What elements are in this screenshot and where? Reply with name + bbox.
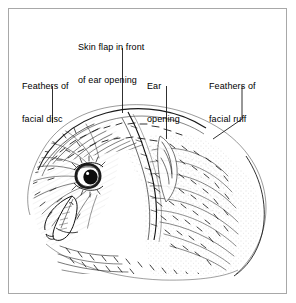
label-facial-disc-line1: Feathers of xyxy=(22,81,69,92)
label-facial-disc-line2: facial disc xyxy=(22,114,69,125)
label-skin-flap: Skin flap in front of ear opening xyxy=(78,20,144,108)
label-facial-ruff-line1: Feathers of xyxy=(209,81,256,92)
label-skin-flap-line1: Skin flap in front xyxy=(78,42,144,53)
figure-frame xyxy=(8,8,287,294)
label-ear-opening-line1: Ear xyxy=(147,81,180,92)
label-facial-disc: Feathers of facial disc xyxy=(22,59,69,147)
label-skin-flap-line2: of ear opening xyxy=(78,75,144,86)
label-facial-ruff: Feathers of facial ruff xyxy=(209,59,256,147)
illustration-figure: Skin flap in front of ear opening Feathe… xyxy=(0,0,296,303)
label-facial-ruff-line2: facial ruff xyxy=(209,114,256,125)
label-ear-opening-line2: opening xyxy=(147,114,180,125)
label-ear-opening: Ear opening xyxy=(147,59,180,147)
